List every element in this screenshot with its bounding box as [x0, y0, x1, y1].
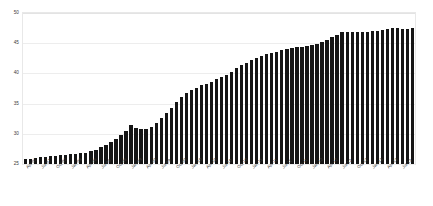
- bar: [320, 42, 323, 164]
- bar: [220, 77, 223, 164]
- bar: [180, 97, 183, 164]
- bar: [175, 102, 178, 164]
- bar: [144, 129, 147, 164]
- bar: [285, 49, 288, 164]
- bar: [205, 84, 208, 164]
- y-tick-label: 30: [14, 130, 19, 135]
- bar: [330, 37, 333, 164]
- bar: [335, 35, 338, 164]
- bar: [230, 72, 233, 164]
- x-axis: Apr-07Jul-07Oct-07Jan-08Apr-08Jul-08Oct-…: [22, 166, 416, 206]
- bar: [300, 47, 303, 164]
- bar: [391, 28, 394, 164]
- bar: [250, 60, 253, 164]
- y-tick-label: 25: [14, 161, 19, 166]
- bar: [381, 30, 384, 164]
- bar: [356, 32, 359, 164]
- bar: [346, 32, 349, 164]
- bar: [396, 28, 399, 165]
- y-tick-label: 35: [14, 100, 19, 105]
- bar: [295, 47, 298, 164]
- bar: [200, 85, 203, 164]
- bar: [99, 147, 102, 164]
- y-tick-label: 40: [14, 70, 19, 75]
- bar: [245, 63, 248, 164]
- bar: [280, 50, 283, 164]
- bar: [170, 108, 173, 164]
- bar: [235, 68, 238, 164]
- bar: [386, 29, 389, 164]
- bar: [215, 79, 218, 164]
- bar: [401, 29, 404, 164]
- bar: [260, 56, 263, 164]
- bar: [225, 75, 228, 164]
- bar: [310, 45, 313, 164]
- bar: [270, 53, 273, 164]
- bar-series: [23, 13, 415, 164]
- bar: [411, 28, 414, 164]
- bar: [290, 48, 293, 164]
- bar: [305, 46, 308, 164]
- bar: [366, 32, 369, 164]
- bar: [361, 32, 364, 164]
- bar: [160, 118, 163, 164]
- bar: [165, 113, 168, 164]
- bar: [265, 54, 268, 164]
- plot-area: [22, 12, 416, 165]
- bar: [210, 82, 213, 164]
- bar: [255, 58, 258, 164]
- y-tick-label: 50: [14, 10, 19, 15]
- bar: [406, 29, 409, 164]
- bar-chart: 253035404550 Apr-07Jul-07Oct-07Jan-08Apr…: [0, 0, 433, 206]
- bar: [185, 93, 188, 164]
- bar: [325, 40, 328, 164]
- bar: [371, 31, 374, 164]
- bar: [114, 139, 117, 164]
- bar: [315, 44, 318, 164]
- bar: [129, 125, 132, 164]
- bar: [340, 32, 343, 164]
- bar: [376, 31, 379, 164]
- y-tick-label: 45: [14, 40, 19, 45]
- bar: [195, 88, 198, 164]
- y-axis: 253035404550: [0, 0, 22, 177]
- bar: [351, 32, 354, 164]
- bar: [190, 90, 193, 164]
- bar: [275, 52, 278, 164]
- bar: [240, 65, 243, 164]
